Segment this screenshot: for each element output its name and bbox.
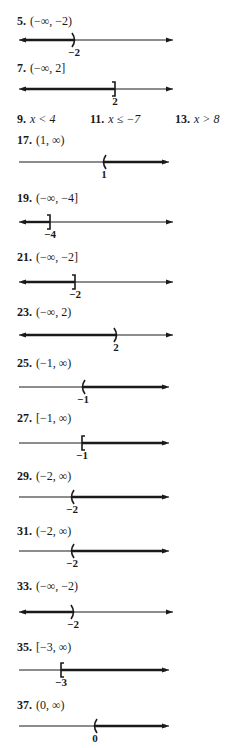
inequality-answer: 13.x > 8 bbox=[175, 112, 219, 127]
inequality-expression: x < 4 bbox=[30, 112, 55, 126]
arrow-right-icon bbox=[162, 724, 169, 729]
inequality-answer: 9.x < 4 bbox=[17, 112, 55, 127]
inequality-answer: 11.x ≤ −7 bbox=[90, 112, 140, 127]
inequality-expression: x ≤ −7 bbox=[108, 112, 140, 126]
endpoint-value: 0 bbox=[92, 732, 98, 744]
exercise-number: 9. bbox=[17, 112, 26, 126]
inequality-expression: x > 8 bbox=[194, 112, 219, 126]
exercise-number: 11. bbox=[90, 112, 104, 126]
exercise-number: 13. bbox=[175, 112, 190, 126]
